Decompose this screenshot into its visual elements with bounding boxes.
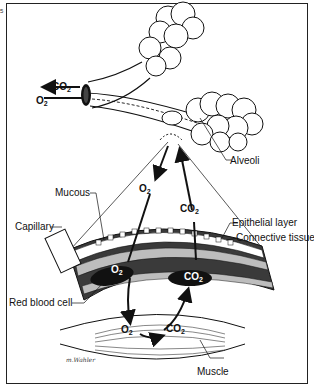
label-mucous: Mucous: [55, 188, 90, 198]
label-connective-tissue: Connective tissue: [236, 233, 314, 243]
label-capillary: Capillary: [15, 222, 54, 232]
label-epithelial-layer: Epithelial layer: [232, 218, 297, 228]
gas-co2-capillary: CO2: [184, 272, 203, 283]
bronchiole: [86, 62, 200, 132]
gas-o2-down: O2: [139, 184, 151, 195]
label-alveoli: Alveoli: [230, 156, 259, 166]
gas-co2-airway: CO2: [52, 82, 71, 93]
gas-co2-muscle: CO2: [166, 324, 185, 335]
gas-co2-up: CO2: [180, 204, 199, 215]
gas-exchange-diagram: [0, 0, 314, 389]
gas-o2-capillary: O2: [111, 265, 123, 276]
capillary-box: [45, 229, 81, 273]
label-muscle: Muscle: [197, 367, 229, 377]
artist-signature: m.Wahler: [66, 356, 95, 363]
gas-o2-airway: O2: [36, 96, 48, 107]
label-red-blood-cell: Red blood cell: [9, 298, 72, 308]
lower-alveoli-cluster: [162, 92, 263, 152]
upper-alveoli-cluster: [139, 2, 204, 76]
gas-o2-muscle: O2: [121, 325, 133, 336]
